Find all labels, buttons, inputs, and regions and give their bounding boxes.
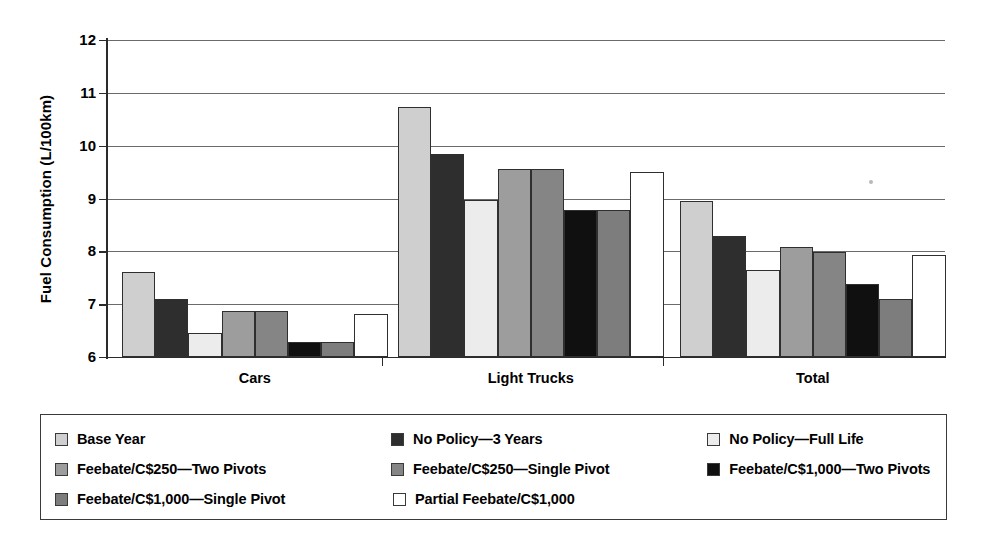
legend-item[interactable]: Base Year <box>55 431 391 447</box>
bar <box>354 314 387 357</box>
y-axis-tick-label: 7 <box>56 296 96 311</box>
legend-swatch-icon <box>393 493 406 506</box>
legend-swatch-icon <box>391 463 404 476</box>
legend-item[interactable]: No Policy—3 Years <box>391 431 707 447</box>
bar <box>431 154 464 357</box>
y-axis-tick <box>99 251 108 252</box>
bar <box>222 311 255 357</box>
y-axis-tick-label: 6 <box>56 349 96 364</box>
bar <box>879 299 912 357</box>
y-axis-tick <box>99 199 108 200</box>
y-axis-tick-label: 10 <box>56 138 96 153</box>
x-axis-tick <box>382 357 383 366</box>
bar <box>713 236 746 357</box>
legend-swatch-icon <box>55 493 68 506</box>
y-axis-tick-label: 8 <box>56 243 96 258</box>
y-axis-tick <box>99 93 108 94</box>
x-axis-category-label: Cars <box>185 370 325 386</box>
legend-swatch-icon <box>707 463 720 476</box>
legend-swatch-icon <box>55 433 68 446</box>
legend-row: Feebate/C$250—Two PivotsFeebate/C$250—Si… <box>55 454 946 484</box>
y-axis-tick-label: 12 <box>56 32 96 47</box>
legend-label: Feebate/C$250—Two Pivots <box>77 461 266 477</box>
x-axis-category-label: Total <box>743 370 883 386</box>
legend-item[interactable]: Feebate/C$1,000—Two Pivots <box>707 461 946 477</box>
legend-label: No Policy—3 Years <box>413 431 542 447</box>
x-axis-category-label: Light Trucks <box>461 370 601 386</box>
legend-row: Base YearNo Policy—3 YearsNo Policy—Full… <box>55 424 946 454</box>
y-axis-tick <box>99 357 108 358</box>
bar <box>155 299 188 357</box>
legend-swatch-icon <box>391 433 404 446</box>
legend-label: Base Year <box>77 431 145 447</box>
y-axis-tick-labels: 1211109876 <box>0 0 96 400</box>
bar <box>680 201 713 357</box>
bar <box>288 342 321 357</box>
bar <box>597 210 630 357</box>
bar <box>498 169 531 357</box>
bar <box>912 255 945 357</box>
legend-item[interactable]: Feebate/C$1,000—Single Pivot <box>55 491 393 507</box>
bar-group-total <box>680 40 946 357</box>
legend-label: Partial Feebate/C$1,000 <box>415 491 575 507</box>
bar <box>321 342 354 357</box>
bar <box>564 210 597 357</box>
bar <box>630 172 663 357</box>
chart-page: Fuel Consumption (L/100km) 1211109876 Ca… <box>0 0 988 542</box>
bar-group-light-trucks <box>398 40 664 357</box>
legend-item[interactable]: No Policy—Full Life <box>707 431 946 447</box>
bar <box>780 247 813 357</box>
legend-label: No Policy—Full Life <box>729 431 863 447</box>
bar <box>188 333 221 357</box>
y-axis-tick-label: 9 <box>56 191 96 206</box>
y-axis-tick <box>99 304 108 305</box>
x-axis-tick <box>663 357 664 366</box>
bar <box>398 107 431 357</box>
y-axis-tick <box>99 146 108 147</box>
legend-item[interactable]: Feebate/C$250—Single Pivot <box>391 461 707 477</box>
y-axis-tick <box>99 40 108 41</box>
legend-label: Feebate/C$250—Single Pivot <box>413 461 609 477</box>
legend-label: Feebate/C$1,000—Two Pivots <box>729 461 930 477</box>
chart-legend: Base YearNo Policy—3 YearsNo Policy—Full… <box>40 414 947 520</box>
legend-swatch-icon <box>707 433 720 446</box>
legend-swatch-icon <box>55 463 68 476</box>
bar <box>464 200 497 357</box>
y-axis-tick-label: 11 <box>56 85 96 100</box>
bar-chart: Fuel Consumption (L/100km) 1211109876 Ca… <box>0 0 988 400</box>
bar <box>122 272 155 357</box>
bar <box>746 270 779 357</box>
bar-group-cars <box>122 40 388 357</box>
legend-row: Feebate/C$1,000—Single PivotPartial Feeb… <box>55 484 946 514</box>
legend-item[interactable]: Feebate/C$250—Two Pivots <box>55 461 391 477</box>
bar <box>255 311 288 357</box>
bar <box>846 284 879 357</box>
legend-label: Feebate/C$1,000—Single Pivot <box>77 491 285 507</box>
bar <box>531 169 564 357</box>
bar <box>813 252 846 357</box>
legend-item[interactable]: Partial Feebate/C$1,000 <box>393 491 711 507</box>
